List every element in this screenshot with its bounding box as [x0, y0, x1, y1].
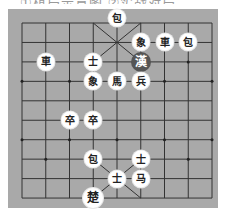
chess-piece[interactable]: 象 — [132, 34, 149, 51]
chess-piece[interactable]: 車 — [37, 53, 54, 70]
chess-piece[interactable]: 包 — [85, 151, 102, 168]
chess-piece[interactable]: 包 — [180, 34, 197, 51]
chess-piece[interactable]: 士 — [85, 53, 102, 70]
chess-piece[interactable]: 楚 — [83, 188, 103, 208]
chess-piece[interactable]: 兵 — [132, 73, 149, 90]
chess-piece[interactable]: 馬 — [109, 73, 126, 90]
chess-piece[interactable]: 卒 — [61, 112, 78, 129]
caption-text: ①棋局示意图 ②实战对局 — [20, 0, 210, 4]
chess-piece[interactable]: 漢 — [131, 52, 151, 72]
chess-piece[interactable]: 車 — [156, 34, 173, 51]
chess-piece[interactable]: 士 — [109, 170, 126, 187]
chess-piece[interactable]: 象 — [85, 73, 102, 90]
chess-piece[interactable]: 包 — [109, 10, 126, 27]
chess-piece[interactable]: 士 — [132, 151, 149, 168]
chess-piece[interactable]: 马 — [132, 170, 149, 187]
chess-piece[interactable]: 卒 — [85, 112, 102, 129]
